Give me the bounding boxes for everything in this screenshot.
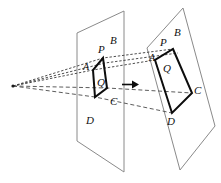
right-plane-outline xyxy=(147,8,215,170)
left-label-Q: Q xyxy=(97,77,105,88)
left-label-B: B xyxy=(110,35,117,46)
right-label-B: B xyxy=(174,27,181,38)
transfer-arrow-head xyxy=(132,81,139,89)
left-label-D: D xyxy=(86,115,94,126)
right-label-D: D xyxy=(167,116,175,127)
left-label-C: C xyxy=(110,96,117,107)
left-label-P: P xyxy=(98,44,105,55)
right-label-Q: Q xyxy=(163,63,171,74)
right-label-A: A xyxy=(149,53,155,63)
figure-canvas xyxy=(0,0,221,183)
projection-apex-point xyxy=(11,84,14,87)
left-label-A: A xyxy=(83,62,89,72)
right-quadrilateral xyxy=(155,49,192,113)
right-label-C: C xyxy=(194,85,201,96)
right-label-P: P xyxy=(160,37,167,48)
projective-geometry-figure: P A B Q C D P A B Q C D xyxy=(0,0,221,183)
